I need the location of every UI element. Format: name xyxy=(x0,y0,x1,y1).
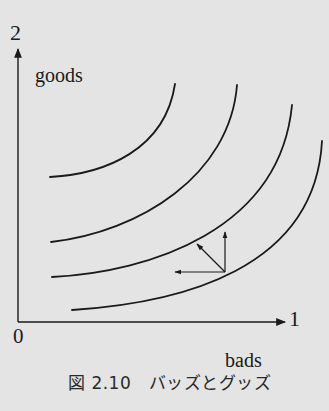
gradient-vector xyxy=(197,244,225,272)
indifference-curve-2 xyxy=(51,85,237,242)
figure-caption: 図 2.10 バッズとグッズ xyxy=(68,375,271,392)
indifference-curve-3 xyxy=(52,105,292,277)
x-axis-label: bads xyxy=(225,350,262,370)
y-axis-tick-label: 2 xyxy=(10,22,21,44)
indifference-curve-1 xyxy=(50,84,175,177)
x-axis-tick-label: 1 xyxy=(289,308,300,330)
origin-label: 0 xyxy=(13,326,24,347)
indifference-curve-4 xyxy=(72,141,322,310)
y-axis-label: goods xyxy=(35,65,83,85)
indifference-curve-diagram xyxy=(0,0,329,411)
